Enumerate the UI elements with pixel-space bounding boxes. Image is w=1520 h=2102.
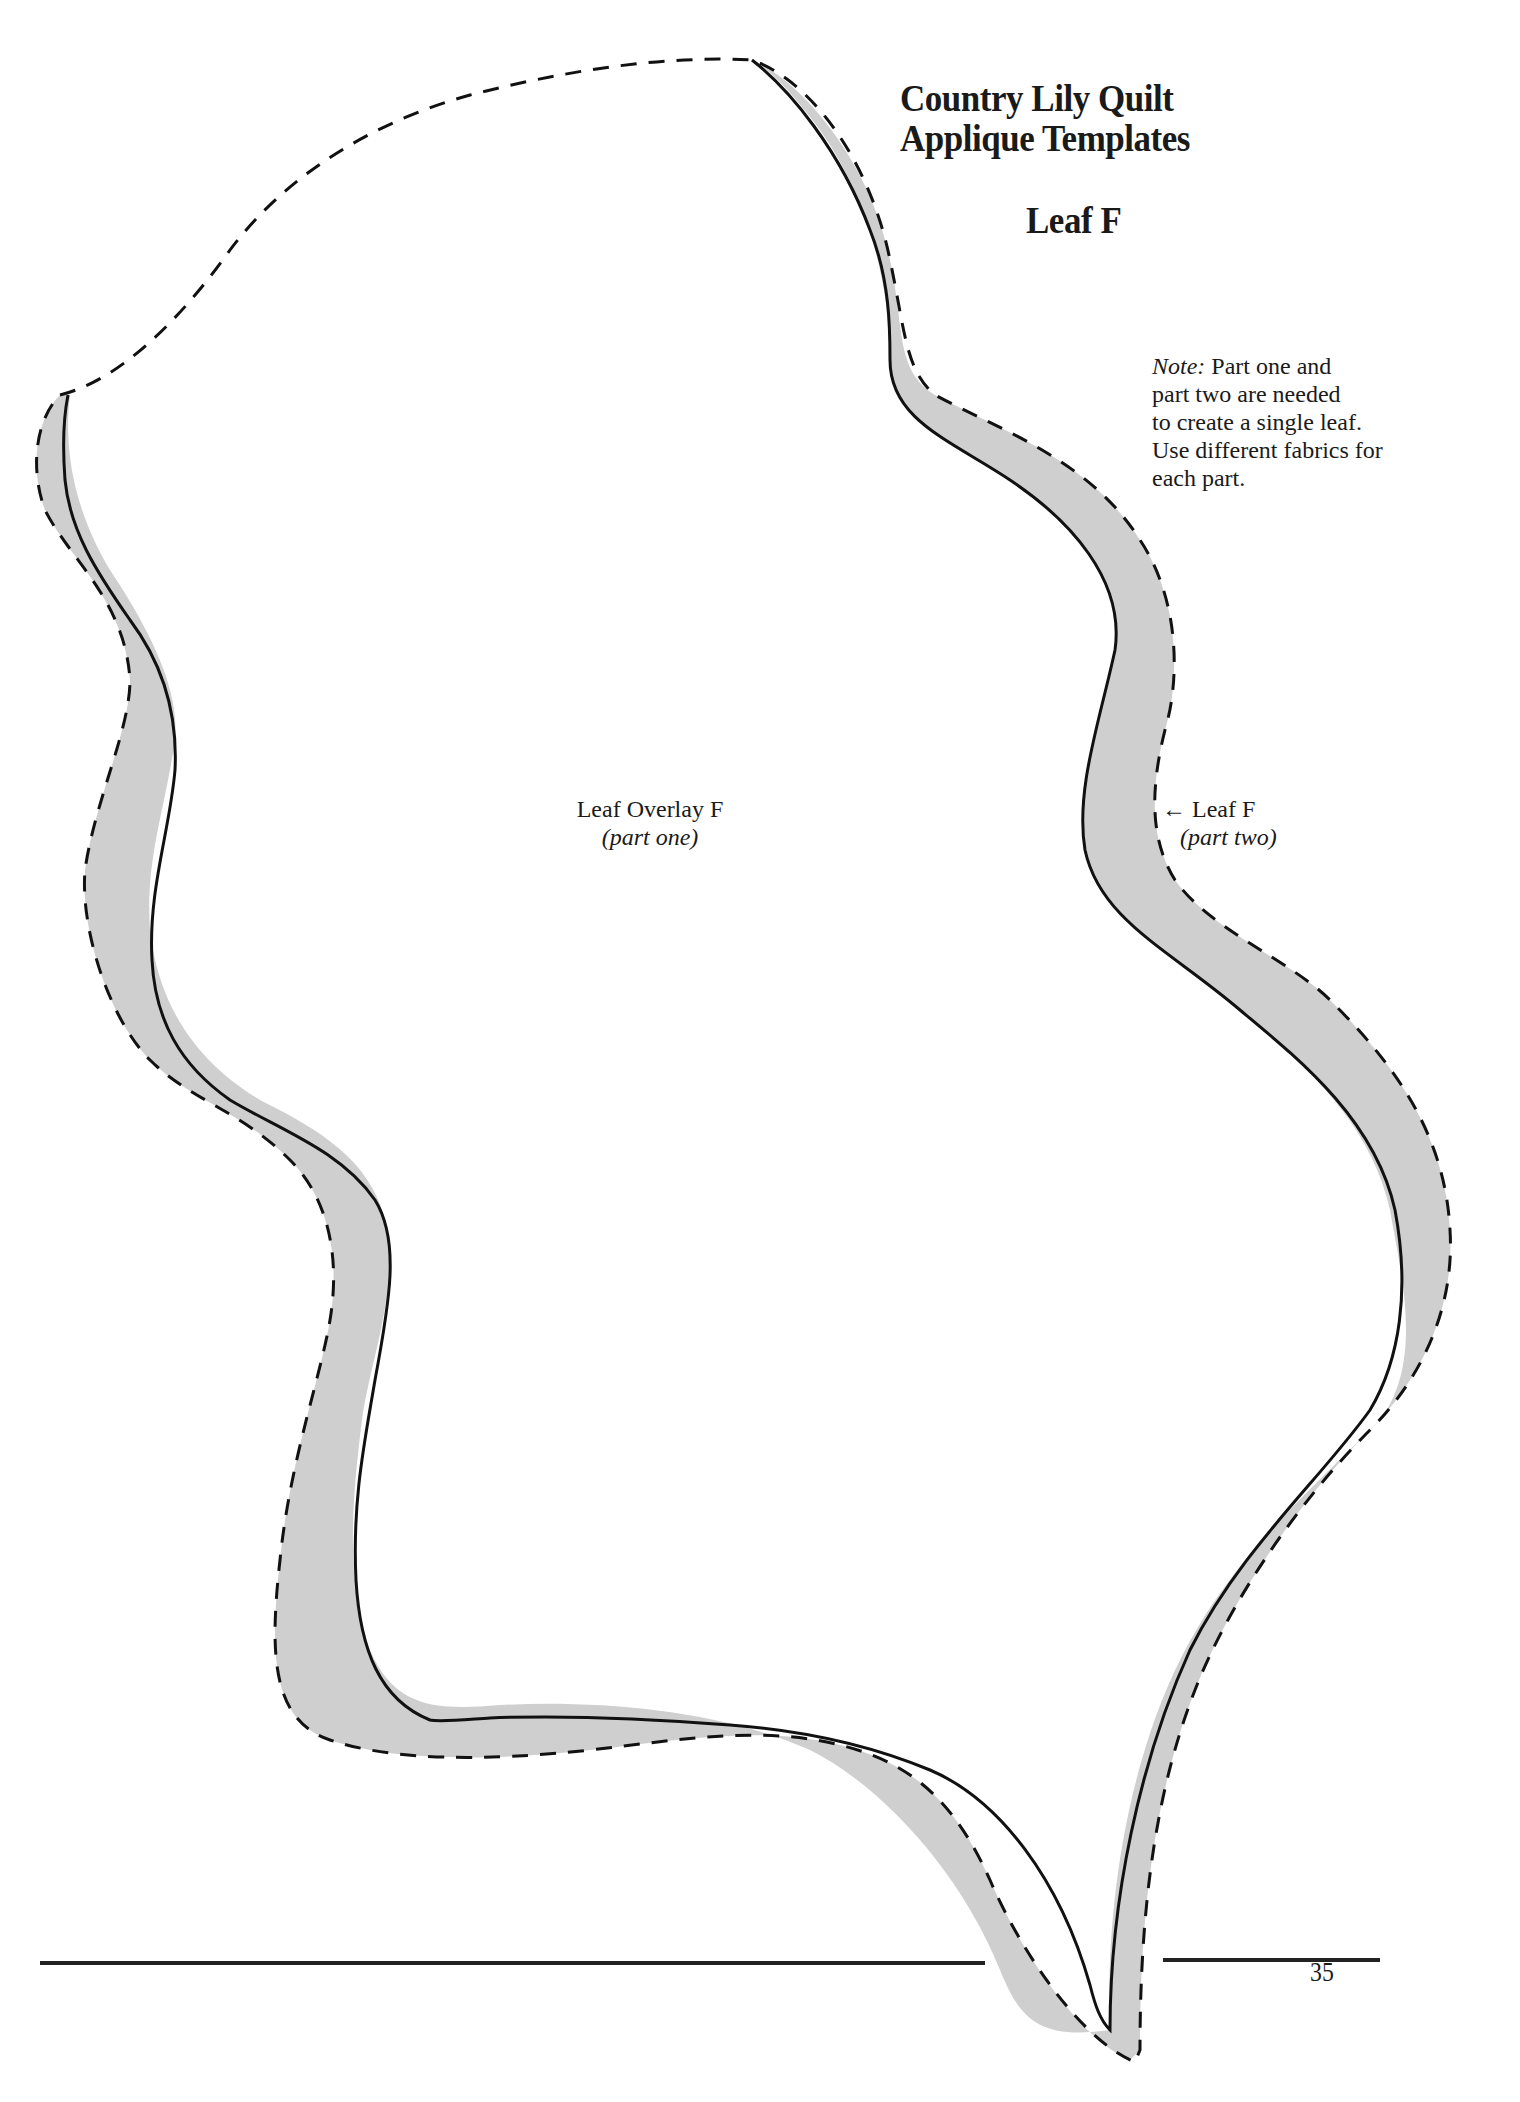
note-text: Note: Part one and part two are needed t… — [1152, 352, 1472, 492]
template-subtitle: Leaf F — [1026, 198, 1121, 242]
leaf-template-drawing — [0, 0, 1520, 2102]
note-label: Note: — [1152, 353, 1205, 379]
arrow-left-icon: ← — [1162, 796, 1186, 822]
part-two-part: (part two) — [1162, 823, 1342, 851]
template-page: Country Lily Quilt Applique Templates Le… — [0, 0, 1520, 2102]
title-line-1: Country Lily Quilt — [900, 78, 1268, 118]
title-line-2: Applique Templates — [900, 118, 1268, 158]
note-line-3: to create a single leaf. — [1152, 409, 1362, 435]
part-two-label: ← Leaf F (part two) — [1162, 795, 1342, 851]
page-number: 35 — [1310, 1956, 1334, 1988]
note-line-2: part two are needed — [1152, 381, 1341, 407]
part-one-part: (part one) — [540, 823, 760, 851]
title-block: Country Lily Quilt Applique Templates — [900, 78, 1300, 158]
part-two-name: Leaf F — [1192, 796, 1255, 822]
note-line-5: each part. — [1152, 465, 1245, 491]
part-one-label: Leaf Overlay F (part one) — [540, 795, 760, 851]
note-line-1: Part one and — [1205, 353, 1331, 379]
note-line-4: Use different fabrics for — [1152, 437, 1383, 463]
part-one-name: Leaf Overlay F — [540, 795, 760, 823]
